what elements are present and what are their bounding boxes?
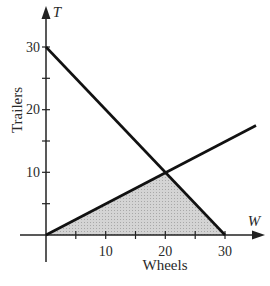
x-tick-10: 10: [99, 244, 113, 259]
x-tick-30: 30: [218, 244, 232, 259]
shaded-region: [46, 172, 225, 235]
t-axis-arrow-icon: [42, 6, 51, 19]
w-axis-arrow-icon: [252, 231, 265, 240]
y-tick-30: 30: [26, 40, 40, 55]
t-variable-label: T: [53, 4, 63, 20]
y-axis-title: Trailers: [9, 87, 25, 133]
feasible-region-chart: 10 20 30 10 20 30 Wheels Trailers W T: [0, 0, 270, 286]
w-variable-label: W: [248, 213, 262, 229]
x-axis-title: Wheels: [143, 257, 188, 273]
y-tick-10: 10: [26, 165, 40, 180]
y-tick-20: 20: [26, 102, 40, 117]
